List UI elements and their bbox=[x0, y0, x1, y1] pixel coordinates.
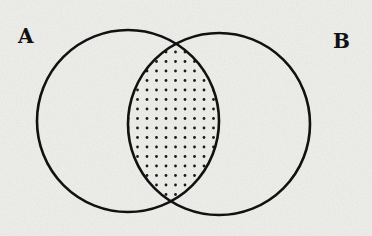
set-a-label: A bbox=[17, 24, 34, 48]
set-b-label: B bbox=[333, 29, 350, 53]
venn-diagram: A B bbox=[0, 0, 372, 236]
